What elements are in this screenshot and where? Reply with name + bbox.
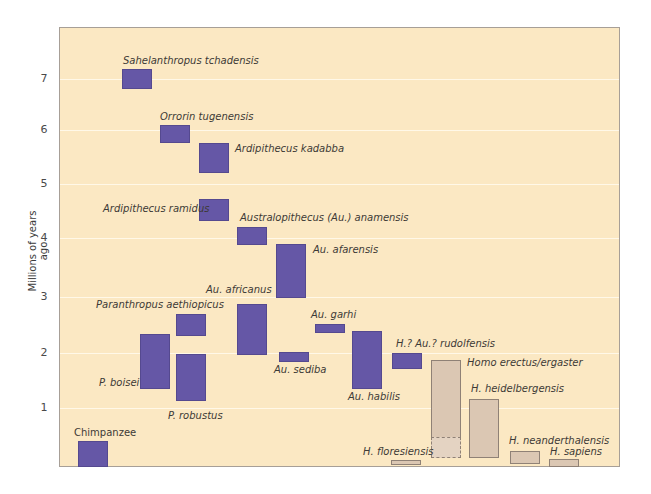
bar-floresiensis bbox=[391, 460, 421, 465]
label-boisei: P. boisei bbox=[99, 377, 139, 388]
bar-kadabba bbox=[199, 143, 229, 173]
erectus-uncertain-range bbox=[431, 437, 461, 458]
bar-garhi bbox=[315, 324, 345, 333]
bar-sahelanthropus bbox=[122, 69, 152, 89]
gridline-4 bbox=[60, 238, 619, 239]
bar-afarensis bbox=[276, 244, 306, 298]
y-tick-6: 6 bbox=[36, 123, 52, 136]
label-afarensis: Au. afarensis bbox=[313, 244, 378, 255]
bar-habilis bbox=[352, 331, 382, 389]
label-kadabba: Ardipithecus kadabba bbox=[235, 143, 344, 154]
label-neanderthalensis: H. neanderthalensis bbox=[509, 435, 609, 446]
y-tick-2: 2 bbox=[36, 346, 52, 359]
bar-sapiens bbox=[549, 459, 579, 467]
label-sapiens: H. sapiens bbox=[550, 446, 602, 457]
label-heidelbergensis: H. heidelbergensis bbox=[471, 383, 564, 394]
gridline-1 bbox=[60, 408, 619, 409]
label-erectus: Homo erectus/ergaster bbox=[467, 357, 583, 368]
y-tick-5: 5 bbox=[36, 177, 52, 190]
gridline-6 bbox=[60, 130, 619, 131]
bar-heidelbergensis bbox=[469, 399, 499, 458]
label-aethiopicus: Paranthropus aethiopicus bbox=[96, 299, 224, 310]
label-anamensis: Australopithecus (Au.) anamensis bbox=[240, 212, 409, 223]
bar-sediba bbox=[279, 352, 309, 362]
bar-orrorin bbox=[160, 125, 190, 143]
label-chimpanzee: Chimpanzee bbox=[74, 427, 136, 438]
label-ramidus: Ardipithecus ramidus bbox=[103, 203, 210, 214]
label-sediba: Au. sediba bbox=[274, 364, 327, 375]
label-sahelanthropus: Sahelanthropus tchadensis bbox=[123, 55, 259, 66]
label-floresiensis: H. floresiensis bbox=[363, 446, 433, 457]
bar-chimpanzee bbox=[78, 441, 108, 467]
gridline-3 bbox=[60, 297, 619, 298]
label-habilis: Au. habilis bbox=[348, 391, 400, 402]
bar-rudolfensis bbox=[392, 353, 422, 369]
y-axis-label: Millions of years ago bbox=[27, 201, 49, 301]
label-rudolfensis: H.? Au.? rudolfensis bbox=[396, 338, 495, 349]
bar-robustus bbox=[176, 354, 206, 401]
bar-neanderthalensis bbox=[510, 451, 540, 464]
y-tick-1: 1 bbox=[36, 401, 52, 414]
label-orrorin: Orrorin tugenensis bbox=[160, 111, 253, 122]
bar-africanus bbox=[237, 304, 267, 355]
label-robustus: P. robustus bbox=[168, 410, 223, 421]
y-tick-7: 7 bbox=[36, 72, 52, 85]
label-africanus: Au. africanus bbox=[206, 284, 272, 295]
label-garhi: Au. garhi bbox=[311, 309, 356, 320]
gridline-5 bbox=[60, 184, 619, 185]
bar-aethiopicus bbox=[176, 314, 206, 336]
bar-boisei bbox=[140, 334, 170, 389]
bar-erectus bbox=[431, 360, 461, 458]
bar-anamensis bbox=[237, 227, 267, 245]
hominin-timeline-chart: 7 6 5 4 3 2 1 Millions of years ago Sahe… bbox=[0, 0, 651, 494]
